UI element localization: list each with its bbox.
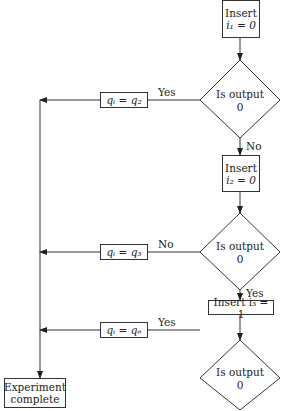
flowchart-connectors	[0, 0, 292, 411]
edge-label-d2-yes: Yes	[246, 287, 264, 299]
insert-i2-box: Insert i₂ = 0	[222, 155, 260, 192]
insert-label: Insert i₃ = 1	[209, 296, 273, 320]
edge-label-d1-yes: Yes	[158, 86, 176, 98]
decision-text: Is output	[205, 88, 275, 101]
edge-label-d1-no: No	[246, 140, 262, 152]
complete-line1: Experiment	[4, 381, 66, 393]
decision-value: 0	[205, 379, 275, 392]
insert-i3-box: Insert i₃ = 1	[208, 300, 274, 315]
decision-text: Is output	[205, 240, 275, 253]
insert-label: Insert	[225, 162, 257, 174]
assign-q6-box: qᵢ = q₆	[100, 322, 148, 338]
experiment-complete-box: Experiment complete	[4, 378, 66, 408]
decision-text: Is output	[205, 366, 275, 379]
complete-line2: complete	[11, 393, 60, 405]
edge-label-d3-yes: Yes	[158, 316, 176, 328]
edge-label-d2-no: No	[158, 238, 174, 250]
decision-3: Is output 0	[205, 366, 275, 392]
insert-expr: i₂ = 0	[226, 174, 256, 186]
assign-q3-box: qᵢ = q₃	[100, 244, 148, 260]
decision-2: Is output 0	[205, 240, 275, 266]
insert-i1-box: Insert i₁ = 0	[222, 0, 260, 38]
insert-label: Insert	[225, 7, 257, 19]
insert-expr: i₁ = 0	[226, 19, 256, 31]
decision-value: 0	[205, 101, 275, 114]
assign-q2-box: qᵢ = q₂	[100, 92, 148, 108]
decision-value: 0	[205, 253, 275, 266]
decision-1: Is output 0	[205, 88, 275, 114]
